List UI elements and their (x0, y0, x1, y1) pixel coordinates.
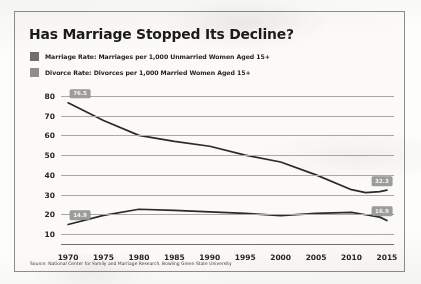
y-axis-tick-70: 70 (45, 111, 55, 120)
y-axis-tick-80: 80 (45, 91, 55, 100)
x-axis-tick-1995: 1995 (235, 253, 256, 262)
gridline-y-80 (61, 96, 394, 97)
gridline-y-70 (61, 116, 394, 117)
legend-label-marriage-rate: Marriage Rate: Marriages per 1,000 Unmar… (45, 53, 270, 60)
legend-item-marriage-rate: Marriage Rate: Marriages per 1,000 Unmar… (30, 50, 270, 63)
y-axis-tick-30: 30 (45, 190, 55, 199)
value-label-marriage-1970: 76.5 (70, 89, 90, 98)
y-axis-tick-50: 50 (45, 151, 55, 160)
chart-page: Has Marriage Stopped Its Decline? Marria… (0, 0, 421, 284)
plot-area: 1020304050607080197019751980198519901995… (61, 86, 394, 244)
x-axis-tick-2000: 2000 (270, 253, 291, 262)
chart-title: Has Marriage Stopped Its Decline? (29, 26, 294, 42)
chart-legend: Marriage Rate: Marriages per 1,000 Unmar… (30, 50, 270, 82)
y-axis-tick-10: 10 (45, 230, 55, 239)
x-axis-tick-2005: 2005 (306, 253, 327, 262)
series-lines (61, 86, 394, 244)
x-axis-tick-2015: 2015 (376, 253, 397, 262)
x-axis-tick-2010: 2010 (341, 253, 362, 262)
y-axis-tick-20: 20 (45, 210, 55, 219)
legend-swatch-marriage-rate (30, 52, 39, 61)
value-label-divorce-1970: 14.9 (70, 211, 90, 220)
gridline-y-60 (61, 135, 394, 136)
value-label-divorce-2015: 16.9 (372, 207, 392, 216)
y-axis-tick-40: 40 (45, 170, 55, 179)
source-caption: Source: National Center for Family and M… (30, 261, 232, 266)
x-axis-line (61, 244, 394, 245)
gridline-y-40 (61, 175, 394, 176)
y-axis-tick-60: 60 (45, 131, 55, 140)
figure-frame: Has Marriage Stopped Its Decline? Marria… (14, 11, 405, 272)
value-label-marriage-2015: 32.3 (372, 177, 392, 186)
gridline-y-20 (61, 214, 394, 215)
gridline-y-30 (61, 195, 394, 196)
legend-swatch-divorce-rate (30, 68, 39, 77)
gridline-y-10 (61, 234, 394, 235)
gridline-y-50 (61, 155, 394, 156)
line-series-divorce-rate (68, 209, 387, 224)
legend-label-divorce-rate: Divorce Rate: Divorces per 1,000 Married… (45, 69, 251, 76)
legend-item-divorce-rate: Divorce Rate: Divorces per 1,000 Married… (30, 66, 270, 79)
